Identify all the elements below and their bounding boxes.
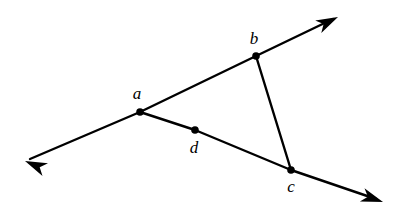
diagram-background <box>0 0 405 217</box>
figure-canvas: a b c d <box>0 0 405 217</box>
point-b-dot <box>252 52 260 60</box>
point-b-label: b <box>250 29 259 48</box>
point-d-label: d <box>190 138 199 157</box>
point-c-dot <box>287 166 295 174</box>
point-a-label: a <box>133 84 142 103</box>
point-a-dot <box>136 108 144 116</box>
geometry-diagram: a b c d <box>0 0 405 217</box>
point-d-dot <box>191 126 199 134</box>
point-c-label: c <box>287 177 295 196</box>
